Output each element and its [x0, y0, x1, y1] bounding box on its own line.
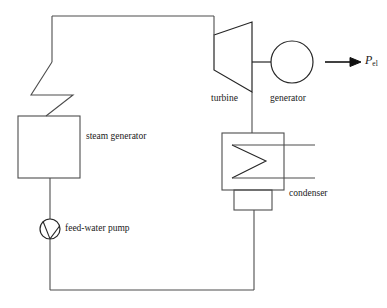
electric-power-label: Pel	[365, 54, 378, 66]
condenser-cooling-coil	[232, 145, 266, 178]
turbine-body	[214, 22, 252, 92]
steam-generator-label: steam generator	[86, 132, 146, 142]
electric-power-subscript: el	[372, 59, 377, 68]
feed-water-pump-label: feed-water pump	[65, 224, 130, 234]
hotwell-box	[234, 190, 272, 210]
steam-generator-box	[18, 116, 80, 178]
schematic-drawing	[0, 0, 387, 308]
generator-circle	[271, 41, 313, 83]
superheater-zigzag	[31, 62, 73, 116]
condenser-box	[222, 133, 284, 190]
condenser-label: condenser	[289, 189, 328, 199]
turbine-label: turbine	[211, 94, 238, 104]
power-plant-diagram: steam generator feed-water pump turbine …	[0, 0, 387, 308]
electric-power-arrow-head	[350, 58, 361, 67]
generator-label: generator	[270, 94, 306, 104]
